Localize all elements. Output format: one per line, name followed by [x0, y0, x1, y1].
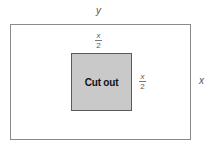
outer-width-label: y [96, 5, 101, 16]
inner-side-fraction-label: x 2 [139, 72, 146, 91]
fraction-denominator: 2 [96, 41, 100, 50]
fraction-numerator: x [97, 31, 101, 40]
outer-height-label: x [199, 75, 204, 86]
cut-out-label: Cut out [85, 77, 119, 88]
inner-top-fraction-label: x 2 [95, 31, 102, 50]
fraction-denominator: 2 [140, 82, 144, 91]
fraction-numerator: x [141, 72, 145, 81]
cut-out-square: Cut out [71, 53, 132, 111]
